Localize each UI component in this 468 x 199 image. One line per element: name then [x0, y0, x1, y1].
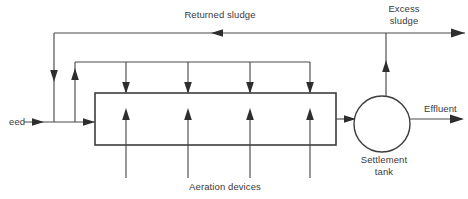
aeration-devices-label: Aeration devices — [189, 181, 261, 192]
aeration-devices-group — [122, 108, 314, 178]
effluent-label: Effluent — [424, 103, 457, 114]
settlement-tank-label-line2: tank — [375, 166, 394, 177]
settlement-tank-label-line1: Settlement — [361, 154, 408, 165]
effluent-flow-group — [410, 115, 464, 124]
settlement-tank-circle — [354, 96, 410, 152]
effluent-arrowhead-icon — [450, 115, 464, 124]
air-manifold-group — [71, 62, 314, 122]
returned-sludge-down-arrowhead-icon — [50, 70, 58, 82]
feed-label: eed — [9, 116, 25, 127]
air-downcomer-1-arrowhead-icon — [122, 82, 130, 94]
excess-sludge-outlet-arrowhead-icon — [451, 29, 465, 38]
aeration-riser-3-arrowhead-icon — [246, 108, 254, 120]
returned-sludge-label: Returned sludge — [184, 9, 255, 20]
air-downcomer-4-arrowhead-icon — [306, 82, 314, 94]
feed-flow-group — [24, 118, 95, 126]
excess-sludge-label-line1: Excess — [388, 3, 419, 14]
aeration-riser-2-arrowhead-icon — [184, 108, 192, 120]
flow-diagram-canvas: Returned sludge Excess sludge eed Efflue… — [0, 0, 468, 199]
aeration-riser-4-arrowhead-icon — [306, 108, 314, 120]
aeration-riser-1-arrowhead-icon — [122, 108, 130, 120]
feed-inlet-arrowhead-icon — [83, 118, 95, 126]
excess-sludge-flow-group — [382, 29, 465, 96]
air-downcomer-3-arrowhead-icon — [246, 82, 254, 94]
air-manifold-supply-arrowhead-icon — [71, 68, 79, 80]
excess-sludge-up-arrowhead-icon — [382, 60, 390, 72]
air-downcomer-2-arrowhead-icon — [184, 82, 192, 94]
feed-arrowhead-icon — [32, 118, 44, 126]
returned-sludge-arrowhead-icon — [211, 29, 223, 37]
excess-sludge-label-line2: sludge — [390, 15, 419, 26]
aeration-tank-rectangle — [95, 93, 336, 145]
returned-sludge-flow-group — [50, 29, 465, 122]
tank-to-settlement-flow-group — [336, 115, 356, 123]
process-flow-diagram: Returned sludge Excess sludge eed Efflue… — [0, 0, 468, 199]
